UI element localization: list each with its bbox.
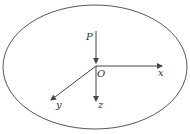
label-y: y xyxy=(55,99,62,110)
y-axis xyxy=(51,66,96,100)
label-z: z xyxy=(97,99,104,110)
label-p: P xyxy=(85,31,93,42)
label-origin: O xyxy=(97,68,105,79)
diagram-canvas: P O x y z xyxy=(0,0,190,134)
label-x: x xyxy=(158,67,164,78)
